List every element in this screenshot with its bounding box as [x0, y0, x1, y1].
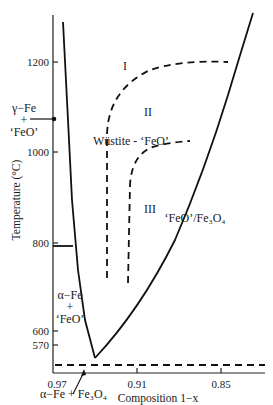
wustite-label: Wüstite - ‘FeO’ — [93, 134, 169, 148]
gamma-fe-arrow-head — [52, 117, 57, 122]
region-I-II-boundary — [107, 62, 228, 278]
x-tick-0.85: 0.85 — [211, 378, 231, 390]
y-tick-600: 600 — [33, 325, 50, 337]
y-tick-1200: 1200 — [27, 56, 50, 68]
region-I-label: I — [123, 59, 127, 73]
o-rich-boundary — [95, 13, 253, 358]
y-tick-800: 800 — [33, 237, 50, 249]
alpha-fe-label-3: ‘FeO’ — [56, 312, 85, 326]
region-II-label: II — [144, 105, 152, 119]
y-tick-1000: 1000 — [27, 146, 50, 158]
x-axis-title: Composition 1−x — [118, 392, 199, 405]
x-tick-0.91: 0.91 — [127, 378, 146, 390]
alpha-fe-fe3o4-label: α−Fe + Fe₃O₄ — [40, 387, 107, 401]
feo-fe3o4-label: ‘FeO’/Fe₃O₄ — [164, 211, 225, 225]
gamma-fe-label-3: ‘FeO’ — [10, 125, 39, 139]
region-III-label: III — [144, 202, 156, 216]
y-tick-570: 570 — [33, 339, 50, 351]
y-axis-title: Temperature (°C) — [10, 159, 23, 240]
phase-diagram: 1200 1000 800 600 570 0.97 0.91 0.85 Com… — [0, 0, 273, 405]
